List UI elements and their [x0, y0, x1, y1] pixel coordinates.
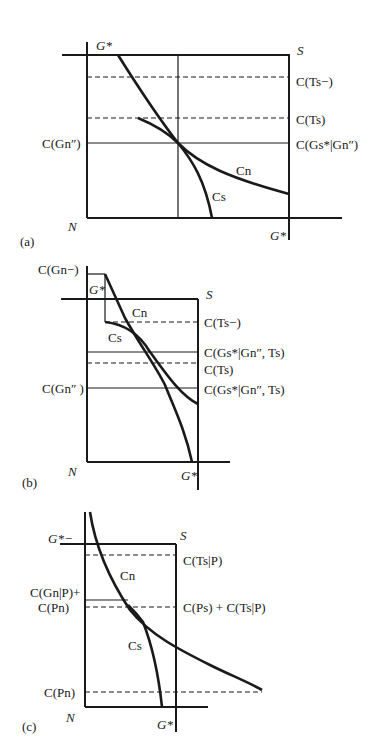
- label-c-gn: C(Gn″): [42, 136, 81, 151]
- label-c-pn: C(Pn): [44, 685, 75, 700]
- label-n: N: [67, 464, 78, 479]
- label-g-star-minus: G*−: [48, 531, 73, 546]
- label-c-gn-p: C(Gn|P)+: [30, 585, 80, 600]
- label-c-ts-minus: C(Ts−): [296, 74, 333, 89]
- curve-cs: [118, 55, 212, 218]
- label-c-ts-minus: C(Ts−): [204, 315, 241, 330]
- label-c-gn-minus: C(Gn−): [38, 262, 79, 277]
- label-c-pn-upper: C(Pn): [38, 600, 69, 615]
- curve-cs: [105, 274, 192, 462]
- label-g-star-top: G*: [89, 282, 105, 297]
- label-cn: Cn: [132, 305, 148, 320]
- label-c-gs-gn-ts-upper: C(Gs*|Gn″, Ts): [204, 345, 285, 360]
- label-s: S: [180, 528, 187, 543]
- label-cn: Cn: [236, 163, 252, 178]
- label-g-star-bottom: G*: [270, 228, 286, 243]
- label-g-star-bottom: G*: [157, 717, 173, 732]
- label-s: S: [206, 287, 213, 302]
- label-c-ts: C(Ts): [296, 112, 325, 127]
- label-g-star-bottom: G*: [181, 468, 197, 483]
- label-cs: Cs: [212, 189, 226, 204]
- panel-a: G* S N G* C(Gn″) C(Ts−) C(Ts) C(Gs*|Gn″)…: [20, 38, 358, 249]
- curve-cn: [138, 118, 289, 194]
- panel-label-c: (c): [22, 719, 36, 734]
- label-cs: Cs: [108, 330, 122, 345]
- label-cs: Cs: [128, 638, 142, 653]
- label-c-ts: C(Ts): [204, 362, 233, 377]
- label-c-ps-ts-p: C(Ps) + C(Ts|P): [183, 600, 266, 615]
- label-c-ts-p: C(Ts|P): [183, 553, 222, 568]
- label-cn: Cn: [120, 568, 136, 583]
- label-n: N: [65, 710, 76, 725]
- label-g-star-top: G*: [96, 38, 112, 53]
- panel-c: G*− S C(Ts|P) Cn C(Gn|P)+ C(Pn) C(Ps) + …: [22, 512, 266, 734]
- label-s: S: [297, 43, 304, 58]
- label-n: N: [67, 219, 78, 234]
- label-c-gs-gn: C(Gs*|Gn″): [296, 137, 358, 152]
- panel-label-b: (b): [22, 475, 37, 490]
- panel-b: C(Gn−) G* S Cn Cs C(Ts−) C(Gs*|Gn″, Ts) …: [22, 262, 285, 490]
- label-c-gs-gn-ts-lower: C(Gs*|Gn″, Ts): [204, 382, 285, 397]
- panel-label-a: (a): [20, 234, 34, 249]
- diagram-canvas: G* S N G* C(Gn″) C(Ts−) C(Ts) C(Gs*|Gn″)…: [0, 0, 369, 746]
- label-c-gn: C(Gn″ ): [42, 381, 84, 396]
